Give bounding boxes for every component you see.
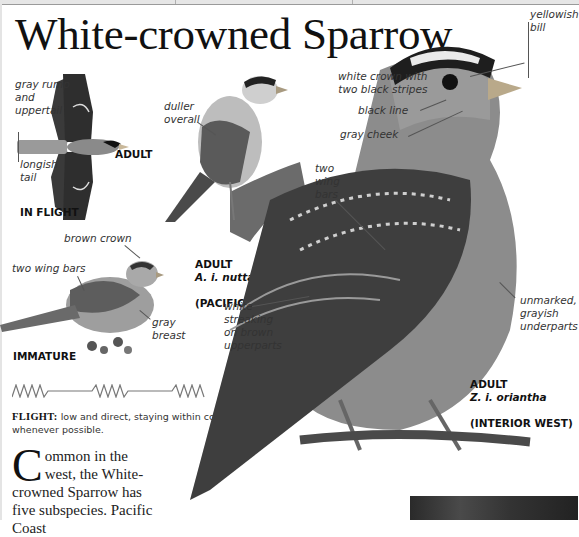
leader-line [18,132,19,162]
caption-age: ADULT [470,378,507,390]
label-white-crown: white crown with two black stripes [338,70,427,96]
caption-adult-interior-west: ADULT Z. i. oriantha (INTERIOR WEST) [470,365,573,430]
strip-divider [175,0,176,4]
label-longish-tail: longish tail [20,158,58,184]
label-two-wing-bars-adult: two wing bars [315,162,340,201]
label-white-streaking: white streaking on brown upperparts [224,300,282,352]
label-gray-cheek: gray cheek [340,128,398,141]
caption-in-flight: IN FLIGHT [20,206,79,219]
flight-heading: FLIGHT: [12,411,58,422]
page-top-strip [0,0,579,5]
caption-region: (INTERIOR WEST) [470,417,573,429]
drop-cap: C [12,448,43,484]
caption-immature: IMMATURE [13,350,76,363]
caption-adult-flight: ADULT [115,148,152,161]
label-brown-crown: brown crown [64,232,132,245]
label-black-line: black line [358,104,408,117]
caption-subspecies: Z. i. oriantha [470,391,573,404]
leader-line [528,22,529,78]
label-yellowish-bill: yellowish bill [530,8,579,34]
label-gray-rump: gray rump and uppertail [15,78,70,117]
strip-divider [352,0,353,4]
label-two-wing-bars: two wing bars [12,262,86,275]
inset-photo [410,496,578,520]
body-paragraph: Common in the west, the White-crowned Sp… [12,447,162,537]
label-unmarked-underparts: unmarked, grayish underparts [520,294,578,333]
